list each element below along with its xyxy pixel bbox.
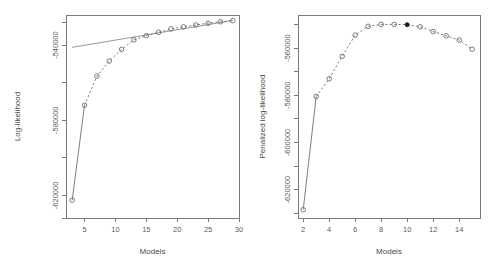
data-point xyxy=(107,59,112,64)
x-tick-label: 12 xyxy=(429,225,437,234)
figure-two-panel-plot: 51015202530-620000-580000-540000ModelsLo… xyxy=(0,0,498,270)
x-tick-label: 2 xyxy=(301,225,305,234)
y-tick-label: -620000 xyxy=(283,176,292,204)
x-tick-label: 4 xyxy=(327,225,331,234)
data-point xyxy=(353,33,358,38)
x-tick-label: 10 xyxy=(403,225,411,234)
plot-right-svg: 2468101214-620000-600000-580000-560000Mo… xyxy=(249,0,498,270)
y-tick-label: -600000 xyxy=(283,129,292,157)
y-axis-title: Log-likelihood xyxy=(13,92,22,141)
plot-box xyxy=(298,15,480,218)
series-segment-initial xyxy=(303,96,316,209)
panel-penalized-log-likelihood: 2468101214-620000-600000-580000-560000Mo… xyxy=(249,0,498,270)
plot-box xyxy=(66,15,239,218)
x-tick-label: 15 xyxy=(142,225,150,234)
x-tick-label: 25 xyxy=(204,225,212,234)
y-tick-label: -540000 xyxy=(51,31,60,59)
x-axis-title: Models xyxy=(376,247,402,256)
y-tick-label: -580000 xyxy=(51,106,60,134)
x-tick-label: 30 xyxy=(235,225,243,234)
x-tick-label: 10 xyxy=(111,225,119,234)
series-line xyxy=(85,21,233,106)
x-tick-label: 6 xyxy=(353,225,357,234)
data-point xyxy=(470,47,475,52)
y-tick-label: -620000 xyxy=(51,182,60,210)
data-point-selected xyxy=(405,23,409,27)
y-tick-label: -580000 xyxy=(283,81,292,109)
data-point xyxy=(340,54,345,59)
x-tick-label: 5 xyxy=(82,225,86,234)
x-axis-title: Models xyxy=(140,247,166,256)
x-tick-label: 14 xyxy=(455,225,463,234)
data-point xyxy=(418,25,423,30)
y-axis-title: Penalized log-likelihood xyxy=(258,74,267,158)
x-tick-label: 8 xyxy=(379,225,383,234)
panel-log-likelihood: 51015202530-620000-580000-540000ModelsLo… xyxy=(0,0,249,270)
plot-left-svg: 51015202530-620000-580000-540000ModelsLo… xyxy=(0,0,249,270)
y-tick-label: -560000 xyxy=(283,34,292,62)
x-tick-label: 20 xyxy=(173,225,181,234)
data-point xyxy=(327,76,332,81)
series-segment-initial xyxy=(72,105,84,200)
